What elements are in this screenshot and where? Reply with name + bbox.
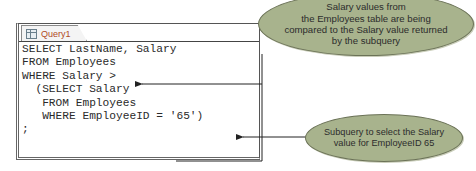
tab-strip: Query1 <box>19 24 259 42</box>
sql-line: SELECT LastName, Salary <box>22 43 203 56</box>
tab-query1[interactable]: Query1 <box>21 25 87 41</box>
sql-line: WHERE EmployeeID = '65') <box>22 110 203 123</box>
callout-text: by the subquery <box>284 35 447 46</box>
tab-label: Query1 <box>41 29 71 39</box>
sql-editor[interactable]: SELECT LastName, SalaryFROM EmployeesWHE… <box>22 43 203 137</box>
sql-line: ; <box>22 123 203 136</box>
sql-line: (SELECT Salary <box>22 83 203 96</box>
callout-text: value for EmployeeID 65 <box>324 138 444 149</box>
sql-line: FROM Employees <box>22 97 203 110</box>
sql-line: WHERE Salary > <box>22 70 203 83</box>
sql-line: FROM Employees <box>22 56 203 69</box>
callout-text: Subquery to select the Salary <box>324 127 444 138</box>
query-sql-icon <box>26 29 37 39</box>
callout-subquery: Subquery to select the Salary value for … <box>305 114 463 162</box>
callout-text: compared to the Salary value returned <box>284 24 447 35</box>
callout-text: the Employees table are being <box>284 13 447 24</box>
callout-salary-comparison: Salary values from the Employees table a… <box>258 0 474 56</box>
callout-text: Salary values from <box>284 1 447 12</box>
query-window: Query1 SELECT LastName, SalaryFROM Emplo… <box>16 23 260 160</box>
